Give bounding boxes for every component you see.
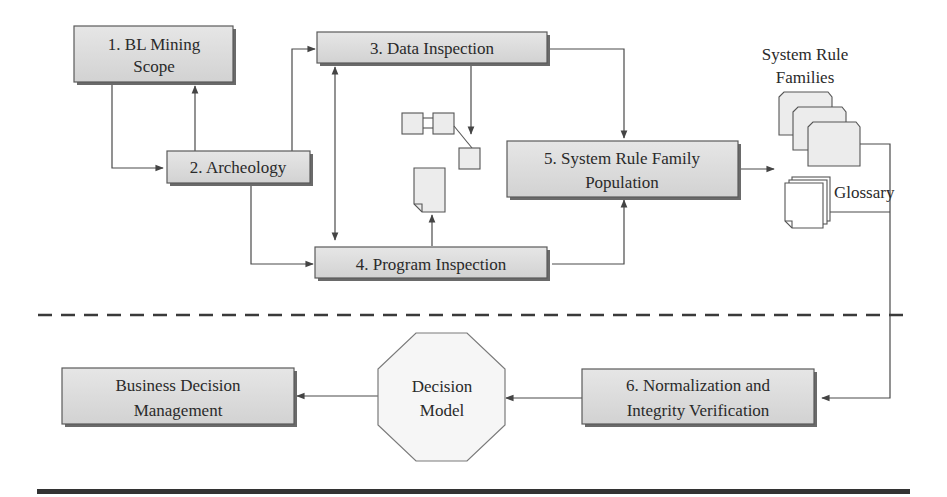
data-model-icon xyxy=(402,113,480,169)
node-decision-model[interactable]: Decision Model xyxy=(378,333,505,461)
svg-text:Glossary: Glossary xyxy=(834,183,895,202)
system-rule-families-artifact: System Rule Families xyxy=(762,45,860,166)
node-label: 4. Program Inspection xyxy=(356,255,507,274)
node-label-line2: Model xyxy=(420,401,465,420)
node-label-line1: 5. System Rule Family xyxy=(544,149,700,168)
node-label-line2: Integrity Verification xyxy=(627,401,770,420)
node-label-line2: Population xyxy=(585,173,659,192)
node-label-line2: Management xyxy=(134,401,223,420)
edge-archeology-to-data xyxy=(292,49,315,152)
node-data-inspection[interactable]: 3. Data Inspection xyxy=(317,32,550,66)
svg-text:Families: Families xyxy=(776,68,835,87)
svg-text:6. Normalization and: 6. Normalization and xyxy=(626,376,770,395)
svg-text:Population: Population xyxy=(585,173,659,192)
node-label-line1: 6. Normalization and xyxy=(626,376,770,395)
node-label-line2: Scope xyxy=(133,57,175,76)
bottom-rule xyxy=(37,489,910,494)
program-document-icon xyxy=(414,168,445,212)
svg-text:Management: Management xyxy=(134,401,223,420)
svg-text:5. System Rule Family: 5. System Rule Family xyxy=(544,149,700,168)
edge-scope-to-archeology xyxy=(112,84,163,168)
rule-family-stack-icon xyxy=(779,92,860,166)
node-label-line1: Decision xyxy=(412,377,473,396)
svg-text:Model: Model xyxy=(420,401,465,420)
artifact-label-line1: System Rule xyxy=(762,45,848,64)
node-label-line1: Business Decision xyxy=(115,376,241,395)
node-archeology[interactable]: 2. Archeology xyxy=(167,151,313,186)
node-label: 2. Archeology xyxy=(190,158,287,177)
glossary-label: Glossary xyxy=(834,183,895,202)
glossary-artifact: Glossary xyxy=(785,177,895,228)
artifact-label-line2: Families xyxy=(776,68,835,87)
svg-text:2. Archeology: 2. Archeology xyxy=(190,158,287,177)
svg-text:1. BL Mining: 1. BL Mining xyxy=(108,35,201,54)
svg-text:4. Program Inspection: 4. Program Inspection xyxy=(356,255,507,274)
edge-program-to-population xyxy=(552,200,624,264)
edge-archeology-to-program xyxy=(251,185,313,264)
edge-data-to-population xyxy=(550,49,624,138)
node-bl-mining-scope[interactable]: 1. BL Mining Scope xyxy=(74,26,236,85)
glossary-documents-icon xyxy=(785,177,830,228)
node-normalization-integrity-verification[interactable]: 6. Normalization and Integrity Verificat… xyxy=(582,369,817,427)
node-label-line1: 1. BL Mining xyxy=(108,35,201,54)
node-label: 3. Data Inspection xyxy=(370,39,495,58)
connectors xyxy=(112,49,890,398)
node-business-decision-management[interactable]: Business Decision Management xyxy=(62,368,297,427)
node-program-inspection[interactable]: 4. Program Inspection xyxy=(315,247,550,281)
svg-text:Decision: Decision xyxy=(412,377,473,396)
process-diagram: 1. BL Mining Scope 2. Archeology 3. Data… xyxy=(0,0,947,497)
svg-text:Integrity Verification: Integrity Verification xyxy=(627,401,770,420)
svg-text:Scope: Scope xyxy=(133,57,175,76)
svg-text:Business Decision: Business Decision xyxy=(115,376,241,395)
svg-text:System Rule: System Rule xyxy=(762,45,848,64)
node-system-rule-family-population[interactable]: 5. System Rule Family Population xyxy=(507,141,741,200)
svg-text:3. Data Inspection: 3. Data Inspection xyxy=(370,39,495,58)
